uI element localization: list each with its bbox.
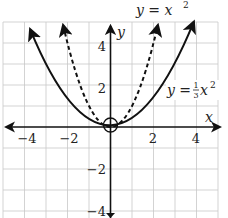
label-prefix: y = xyxy=(166,82,191,98)
y-tick-label: 4 xyxy=(98,39,106,54)
label-x-squared-main: y = x xyxy=(135,2,173,18)
parabola-graph: −4 −2 2 4 4 2 −2 −4 y x y = x 2 y = 1 3 … xyxy=(0,0,228,218)
x-axis-label: x xyxy=(205,109,213,125)
x-tick-labels: −4 −2 2 4 xyxy=(17,131,200,146)
y-tick-label: 2 xyxy=(98,81,106,96)
label-frac-num: 1 xyxy=(193,81,198,90)
y-axis-bottom-arrow-icon xyxy=(106,213,115,218)
y-tick-label: −2 xyxy=(87,162,106,177)
label-exponent: 2 xyxy=(210,80,216,90)
y-axis-label: y xyxy=(116,24,126,40)
label-x-squared: y = x 2 xyxy=(135,0,189,18)
y-tick-label: −4 xyxy=(87,204,106,218)
label-one-third-x-squared: y = 1 3 x 2 xyxy=(166,80,220,100)
x-tick-label: −4 xyxy=(17,131,36,146)
curve-one-third-x-squared xyxy=(30,22,193,125)
y-tick-labels: 4 2 −2 −4 xyxy=(87,39,106,218)
x-tick-label: −2 xyxy=(59,131,78,146)
x-tick-label: 4 xyxy=(192,131,200,146)
label-frac-den: 3 xyxy=(193,91,198,100)
x-tick-label: 2 xyxy=(149,131,157,146)
label-var: x xyxy=(200,82,208,98)
label-x-squared-exponent: 2 xyxy=(183,0,189,10)
